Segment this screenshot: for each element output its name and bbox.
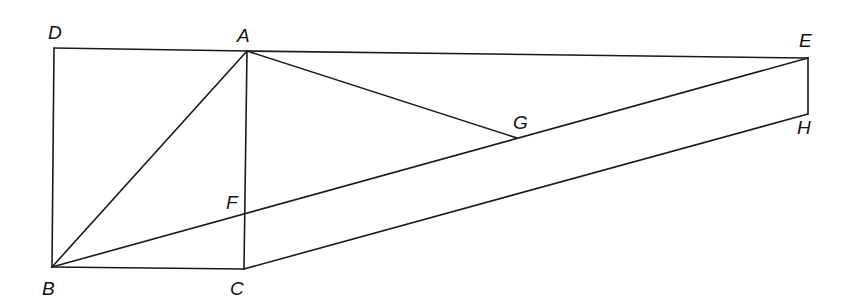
segment-ch [244, 114, 808, 269]
geometry-diagram: D A E H G F B C [0, 0, 856, 307]
point-label-e: E [799, 30, 812, 51]
point-label-a: A [236, 25, 250, 46]
point-label-f: F [226, 192, 239, 213]
point-label-g: G [513, 112, 528, 133]
point-label-d: D [48, 22, 62, 43]
point-label-c: C [230, 278, 244, 299]
segment-ac [244, 51, 247, 269]
segment-be [52, 58, 808, 267]
labels-group: D A E H G F B C [42, 22, 812, 299]
segments-group [52, 48, 808, 269]
point-label-b: B [42, 278, 55, 299]
segment-ae [247, 51, 808, 58]
segment-db [52, 48, 54, 267]
segment-da [54, 48, 247, 51]
segment-bc [52, 267, 244, 269]
point-label-h: H [797, 117, 811, 138]
segment-ab [52, 51, 247, 267]
segment-ag [247, 51, 517, 138]
